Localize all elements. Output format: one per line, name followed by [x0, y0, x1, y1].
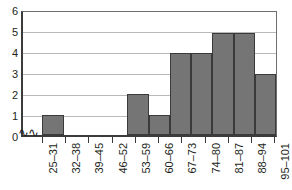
y-axis-tick-label: 5	[2, 27, 18, 37]
bar-slot	[106, 12, 127, 135]
bar-slot	[64, 12, 85, 135]
bar-slot	[85, 12, 106, 135]
y-axis-tick-label: 3	[2, 69, 18, 79]
x-axis-tick-label: 53–59	[141, 143, 152, 190]
x-axis-tick-label: 74–80	[211, 143, 222, 190]
bar-67-73	[170, 53, 191, 135]
y-axis-tick-label: 6	[2, 6, 18, 16]
x-axis-tick-label: 46–52	[118, 143, 129, 190]
plot-area	[21, 11, 277, 137]
x-axis-tick-label: 81–87	[234, 143, 245, 190]
y-axis-tick-label: 0	[2, 132, 18, 142]
bar-slot	[42, 12, 63, 135]
x-axis-tick-label: 95–101	[280, 143, 291, 190]
x-axis-tick-label: 39–45	[94, 143, 105, 190]
bar-series	[23, 12, 276, 135]
bar-95-101	[255, 74, 276, 136]
bar-slot	[170, 12, 191, 135]
y-axis-tick-label: 4	[2, 48, 18, 58]
bar-53-59	[127, 94, 148, 135]
x-axis-tick-label: 67–73	[187, 143, 198, 190]
x-axis-tick-label: 32–38	[71, 143, 82, 190]
histogram-chart: 6 5 4 3 2 1 0 ∿∿	[0, 0, 292, 190]
y-axis-labels: 6 5 4 3 2 1 0	[0, 0, 18, 190]
bar-74-80	[191, 53, 212, 135]
x-axis-tick-label: 25–31	[48, 143, 59, 190]
x-axis-tick-label: 88–94	[257, 143, 268, 190]
bar-25-31	[42, 115, 63, 136]
bar-88-94	[234, 33, 255, 136]
bar-slot	[255, 12, 276, 135]
bar-slot	[234, 12, 255, 135]
bar-60-66	[149, 115, 170, 136]
bar-slot	[191, 12, 212, 135]
x-axis-tick-label: 60–66	[164, 143, 175, 190]
bar-slot	[127, 12, 148, 135]
y-axis-tick-label: 2	[2, 90, 18, 100]
bar-81-87	[212, 33, 233, 136]
bar-slot	[23, 12, 42, 135]
bar-slot	[149, 12, 170, 135]
y-axis-tick-label: 1	[2, 111, 18, 121]
x-axis-labels: 25–31 32–38 39–45 46–52 53–59 60–66 67–7…	[21, 143, 277, 190]
bar-slot	[212, 12, 233, 135]
